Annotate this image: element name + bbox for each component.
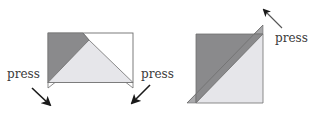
press-label-left: press <box>7 68 40 80</box>
left-flap <box>48 83 55 89</box>
left-figure <box>32 33 150 105</box>
arrow-right <box>132 85 150 103</box>
press-label-right: press <box>141 68 174 80</box>
press-label-top-right: press <box>275 32 308 44</box>
folding-diagram: press press press <box>0 0 317 117</box>
diagram-canvas <box>0 0 317 117</box>
right-flap <box>126 83 133 89</box>
right-figure <box>187 10 282 103</box>
arrow-left <box>32 88 50 105</box>
arrow-top-right <box>264 10 282 28</box>
